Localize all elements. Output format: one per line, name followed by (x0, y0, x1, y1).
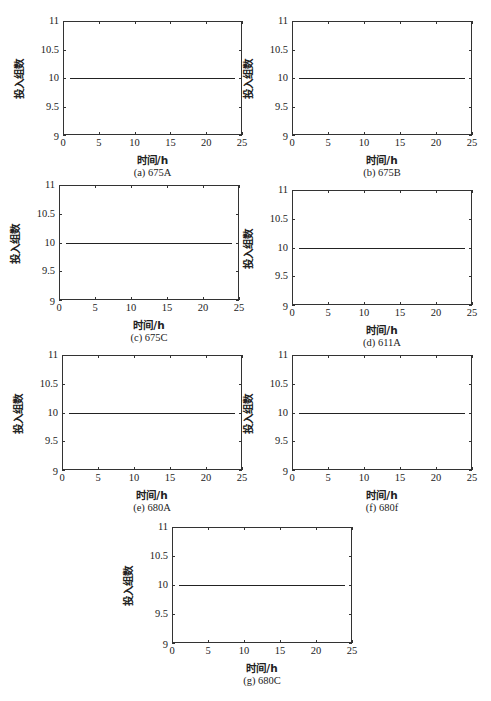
x-tick-label: 25 (342, 645, 362, 657)
x-tick (328, 467, 329, 470)
y-tick (349, 556, 352, 557)
y-tick-label: 10.5 (260, 213, 288, 225)
y-tick (236, 185, 239, 186)
x-tick-label: 5 (318, 307, 338, 319)
y-tick (469, 190, 472, 191)
y-tick (172, 585, 175, 586)
x-tick (436, 190, 437, 193)
y-tick (349, 585, 352, 586)
y-tick-label: 9.5 (260, 101, 288, 113)
y-tick-label: 11 (140, 521, 168, 533)
x-tick (95, 185, 96, 188)
y-tick (469, 78, 472, 79)
x-axis-label: 时间/h (342, 322, 422, 337)
y-tick (292, 384, 295, 385)
x-axis-label: 时间/h (342, 152, 422, 167)
y-tick-label: 10.5 (27, 208, 55, 220)
data-series-line (299, 248, 465, 249)
y-tick-label: 10.5 (260, 44, 288, 56)
x-tick (364, 355, 365, 358)
x-tick (328, 21, 329, 24)
x-tick-label: 10 (125, 137, 145, 149)
y-tick (292, 276, 295, 277)
x-tick-label: 15 (390, 307, 410, 319)
x-tick (206, 21, 207, 24)
x-tick (244, 640, 245, 643)
x-tick (472, 355, 473, 358)
y-tick-label: 10 (260, 242, 288, 254)
x-tick (364, 132, 365, 135)
y-tick (349, 643, 352, 644)
y-tick-label: 10 (27, 237, 55, 249)
x-tick-label: 25 (229, 302, 249, 314)
x-tick-label: 15 (390, 472, 410, 484)
y-tick (292, 21, 295, 22)
y-tick (59, 185, 62, 186)
x-tick (328, 190, 329, 193)
y-tick-label: 10.5 (140, 550, 168, 562)
x-tick (170, 21, 171, 24)
y-tick (469, 107, 472, 108)
y-tick (172, 614, 175, 615)
x-tick (239, 297, 240, 300)
y-tick-label: 10 (140, 579, 168, 591)
y-tick-label: 9 (260, 466, 288, 478)
y-tick (63, 21, 66, 22)
x-tick-label: 10 (124, 472, 144, 484)
x-tick (436, 467, 437, 470)
x-tick-label: 5 (88, 472, 108, 484)
x-tick (208, 640, 209, 643)
y-tick-label: 11 (27, 179, 55, 191)
y-tick-label: 9 (30, 466, 58, 478)
x-tick (280, 640, 281, 643)
x-tick (328, 132, 329, 135)
panel-caption: (e) 680A (102, 502, 202, 513)
x-tick-label: 25 (232, 137, 252, 149)
x-tick (167, 185, 168, 188)
x-tick-label: 20 (426, 307, 446, 319)
panel-caption: (g) 680C (212, 675, 312, 686)
y-tick (59, 300, 62, 301)
x-tick-label: 5 (318, 137, 338, 149)
data-series-line (69, 413, 235, 414)
y-tick (292, 413, 295, 414)
x-tick (239, 185, 240, 188)
y-tick-label: 9 (31, 131, 59, 143)
x-tick (280, 527, 281, 530)
y-tick (469, 355, 472, 356)
panel-caption: (a) 675A (103, 167, 203, 178)
x-tick (364, 467, 365, 470)
y-tick-label: 11 (31, 15, 59, 27)
y-tick-label: 10.5 (31, 44, 59, 56)
y-tick (63, 135, 66, 136)
x-tick (131, 185, 132, 188)
y-tick-label: 9.5 (27, 265, 55, 277)
x-tick (208, 527, 209, 530)
y-tick (469, 248, 472, 249)
x-tick (364, 190, 365, 193)
x-tick-label: 15 (160, 137, 180, 149)
y-tick (349, 527, 352, 528)
y-tick (469, 441, 472, 442)
x-tick-label: 5 (89, 137, 109, 149)
y-tick (172, 643, 175, 644)
y-tick (236, 214, 239, 215)
data-series-line (70, 78, 235, 79)
y-tick-label: 9 (260, 131, 288, 143)
x-tick-label: 15 (390, 137, 410, 149)
y-tick (59, 243, 62, 244)
x-axis-label: 时间/h (342, 487, 422, 502)
y-tick (292, 78, 295, 79)
x-tick-label: 15 (157, 302, 177, 314)
y-tick (292, 470, 295, 471)
x-tick (242, 355, 243, 358)
y-tick (62, 355, 65, 356)
x-tick-label: 15 (160, 472, 180, 484)
x-tick (134, 467, 135, 470)
y-tick (292, 50, 295, 51)
y-tick (469, 21, 472, 22)
y-tick (292, 135, 295, 136)
x-tick (352, 527, 353, 530)
y-tick (63, 107, 66, 108)
x-tick (135, 21, 136, 24)
